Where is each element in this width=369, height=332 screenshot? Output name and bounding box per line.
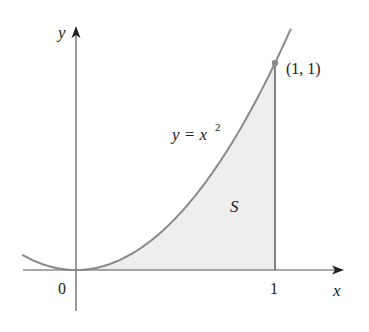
point-1-1-marker — [272, 60, 278, 66]
point-label: (1, 1) — [286, 60, 321, 78]
region-label-s: S — [230, 197, 239, 216]
area-under-parabola-figure: y x 0 1 (1, 1) S y = x 2 — [0, 0, 369, 332]
figure-svg: y x 0 1 (1, 1) S y = x 2 — [0, 0, 369, 332]
x-axis-label: x — [332, 281, 341, 300]
y-axis-label: y — [56, 23, 66, 42]
curve-equation-label: y = x — [170, 125, 208, 144]
curve-equation-exponent: 2 — [215, 121, 221, 133]
shaded-region-s — [76, 63, 275, 270]
x-tick-label-1: 1 — [270, 280, 278, 297]
origin-label: 0 — [58, 280, 66, 297]
